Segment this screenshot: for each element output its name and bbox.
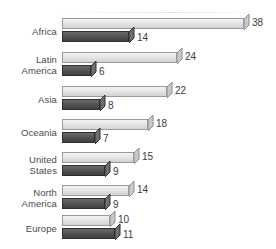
value-label-dark: 8: [108, 100, 114, 111]
bar-dark-end-cap: [91, 61, 96, 76]
value-label-light: 38: [252, 17, 263, 28]
value-label-dark: 6: [99, 66, 105, 77]
bar-dark: [62, 99, 100, 110]
bar-dark: [62, 165, 105, 176]
value-label-dark: 9: [113, 166, 119, 177]
bar-dark-end-cap: [129, 27, 134, 42]
bar-dark: [62, 228, 115, 239]
category-label: Oceania: [0, 127, 57, 138]
bar-dark-front-face: [62, 99, 100, 110]
category-label: Europe: [0, 223, 57, 234]
category-label: North America: [0, 187, 57, 209]
value-label-light: 10: [118, 214, 129, 225]
bar-dark: [62, 31, 129, 42]
category-label: Africa: [0, 26, 57, 37]
value-label-dark: 9: [113, 199, 119, 210]
bar-light-end-cap: [148, 115, 153, 130]
bar-light-end-cap: [134, 148, 139, 163]
value-label-light: 24: [185, 51, 196, 62]
bar-dark-front-face: [62, 165, 105, 176]
bar-light-end-cap: [177, 48, 182, 63]
bar-light-end-cap: [129, 181, 134, 196]
value-label-dark: 7: [103, 133, 109, 144]
bar-dark-front-face: [62, 65, 91, 76]
category-label: Asia: [0, 94, 57, 105]
value-label-light: 14: [137, 184, 148, 195]
bar-dark-end-cap: [105, 194, 110, 209]
bar-dark-end-cap: [115, 224, 120, 239]
value-label-dark: 11: [123, 229, 133, 240]
value-label-dark: 14: [137, 32, 148, 43]
bar-dark-end-cap: [95, 128, 100, 143]
bar-light-end-cap: [244, 14, 249, 29]
bar-dark: [62, 132, 95, 143]
bar-dark-front-face: [62, 198, 105, 209]
category-label: United States: [0, 154, 57, 176]
scan-artifact-line: [60, 12, 250, 13]
bar-dark-front-face: [62, 31, 129, 42]
category-label: Latin America: [0, 54, 57, 76]
bar-dark: [62, 65, 91, 76]
bar-dark-end-cap: [105, 161, 110, 176]
bar-dark-front-face: [62, 228, 115, 239]
value-label-light: 22: [175, 85, 186, 96]
value-label-light: 15: [142, 151, 153, 162]
bar-light-end-cap: [167, 82, 172, 97]
bar-dark-end-cap: [100, 95, 105, 110]
bar-dark-front-face: [62, 132, 95, 143]
bar-dark: [62, 198, 105, 209]
value-label-light: 18: [156, 118, 167, 129]
bar-chart: Africa3814Latin America246Asia228Oceania…: [0, 0, 276, 249]
